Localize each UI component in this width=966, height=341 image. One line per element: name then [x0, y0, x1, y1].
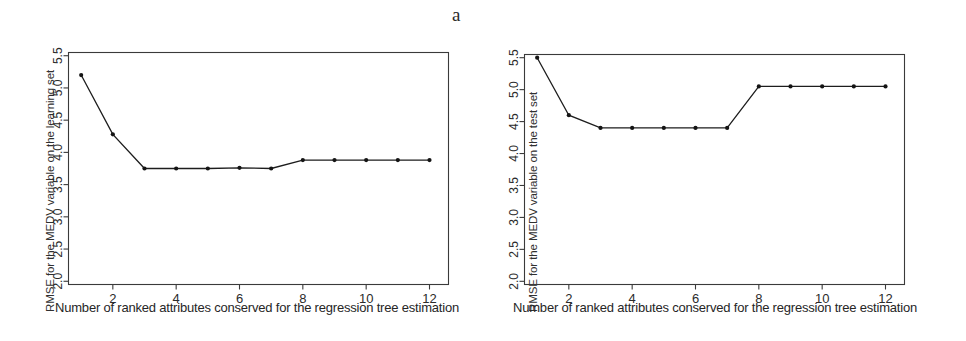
data-point-marker: [111, 132, 115, 136]
data-point-marker: [237, 166, 241, 170]
data-point-marker: [301, 158, 305, 162]
data-point-marker: [427, 158, 431, 162]
panel-a-x-axis-title: Number of ranked attributes conserved fo…: [55, 300, 459, 315]
data-point-marker: [630, 126, 634, 130]
y-tick-label: 3.5: [507, 177, 521, 194]
y-tick-label: 5.5: [51, 47, 65, 64]
panel-b: b RMSE for the MEDV variable on the test…: [483, 0, 966, 341]
panel-b-data-line: [537, 58, 885, 128]
data-point-marker: [332, 158, 336, 162]
data-point-marker: [852, 84, 856, 88]
panel-a: a RMSE for the MEDV variable on the lear…: [0, 0, 483, 341]
y-tick-label: 3.0: [51, 208, 65, 225]
y-tick-label: 4.5: [507, 113, 521, 130]
data-point-marker: [598, 126, 602, 130]
data-point-marker: [662, 126, 666, 130]
y-tick-label: 3.5: [51, 176, 65, 193]
panel-a-y-tick-labels: 2.02.53.03.54.04.55.05.5: [51, 47, 65, 290]
y-tick-label: 2.0: [507, 273, 521, 290]
data-point-marker: [142, 166, 146, 170]
y-tick-label: 5.0: [51, 79, 65, 96]
data-point-marker: [206, 166, 210, 170]
data-point-marker: [364, 158, 368, 162]
data-point-marker: [788, 84, 792, 88]
panel-b-plot-frame: [525, 55, 905, 285]
panel-a-x-tick-marks: [113, 285, 430, 290]
panel-b-data-points: [535, 56, 888, 130]
panel-b-x-axis-title: Number of ranked attributes conserved fo…: [513, 300, 917, 315]
panel-b-x-tick-marks: [569, 285, 886, 290]
panel-b-plot: 2.02.53.03.54.04.55.05.5 24681012: [483, 0, 966, 341]
panel-a-plot: 2.02.53.03.54.04.55.05.5 24681012: [0, 0, 483, 341]
data-point-marker: [757, 84, 761, 88]
data-point-marker: [79, 73, 83, 77]
data-point-marker: [725, 126, 729, 130]
data-point-marker: [693, 126, 697, 130]
data-point-marker: [535, 56, 539, 60]
data-point-marker: [820, 84, 824, 88]
y-tick-label: 2.5: [507, 241, 521, 258]
y-tick-label: 5.0: [507, 81, 521, 98]
y-tick-label: 5.5: [507, 49, 521, 66]
y-tick-label: 2.0: [51, 273, 65, 290]
data-point-marker: [269, 166, 273, 170]
y-tick-label: 4.0: [51, 144, 65, 161]
data-point-marker: [396, 158, 400, 162]
panel-b-y-tick-labels: 2.02.53.03.54.04.55.05.5: [507, 49, 521, 290]
y-tick-label: 4.0: [507, 145, 521, 162]
panel-a-data-points: [79, 73, 432, 171]
data-point-marker: [567, 113, 571, 117]
figure-two-panel-line-charts: a RMSE for the MEDV variable on the lear…: [0, 0, 966, 341]
data-point-marker: [174, 166, 178, 170]
y-tick-label: 4.5: [51, 112, 65, 129]
y-tick-label: 2.5: [51, 240, 65, 257]
y-tick-label: 3.0: [507, 209, 521, 226]
data-point-marker: [883, 84, 887, 88]
panel-a-data-line: [81, 75, 429, 168]
